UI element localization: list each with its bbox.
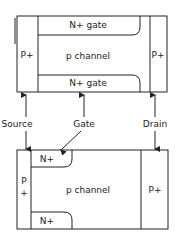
top-left-p-label: P+ [21, 50, 34, 60]
top-gate-label: N+ gate [69, 20, 107, 30]
gate-label: Gate [73, 119, 95, 129]
drain-label: Drain [143, 119, 167, 129]
top-right-p-label: P+ [152, 50, 165, 60]
bottom-left-p-label-1: P [21, 176, 27, 186]
bottom-right-p-label: P+ [149, 185, 162, 195]
bottom-channel-label: p channel [66, 185, 110, 195]
top-channel-label: p channel [66, 51, 110, 61]
bottom-bottom-gate-label: N+ [40, 216, 54, 226]
jfet-diagram: P+ P+ N+ gate p channel N+ gate Source G… [0, 0, 180, 245]
bottom-left-p-label-2: + [20, 188, 28, 198]
gate-arrow-down [61, 131, 81, 150]
bottom-top-gate-label: N+ [40, 154, 54, 164]
source-label: Source [2, 119, 33, 129]
top-bottom-gate-label: N+ gate [69, 78, 107, 88]
